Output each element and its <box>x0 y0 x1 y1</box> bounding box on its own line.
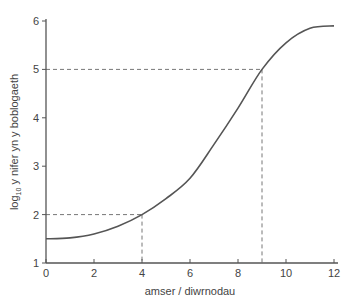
x-tick-label: 6 <box>187 267 193 279</box>
x-tick-label: 8 <box>235 267 241 279</box>
y-axis-title: log10 y nifer yn y boblogaeth <box>8 74 22 210</box>
x-tick-label: 4 <box>139 267 145 279</box>
y-axis-title-subscript: 10 <box>15 188 22 196</box>
x-tick-label: 10 <box>280 267 292 279</box>
y-tick-label: 6 <box>33 15 39 27</box>
y-tick-label: 5 <box>33 63 39 75</box>
guide-lines <box>46 69 262 263</box>
y-tick-label: 3 <box>33 160 39 172</box>
y-axis-title-rest: y nifer yn y boblogaeth <box>8 74 20 188</box>
y-tick-label: 4 <box>33 112 39 124</box>
x-tick-label: 12 <box>328 267 340 279</box>
y-axis-title-main: log <box>8 195 20 210</box>
x-tick-label: 0 <box>43 267 49 279</box>
y-tick-label: 2 <box>33 209 39 221</box>
y-tick-label: 1 <box>33 257 39 269</box>
series-line-population <box>46 26 334 239</box>
x-ticks: 024681012 <box>43 259 340 279</box>
x-tick-label: 2 <box>91 267 97 279</box>
y-ticks: 123456 <box>33 15 46 269</box>
chart: 024681012 123456 amser / diwrnodau log10… <box>0 0 360 304</box>
x-axis-title: amser / diwrnodau <box>145 285 236 297</box>
